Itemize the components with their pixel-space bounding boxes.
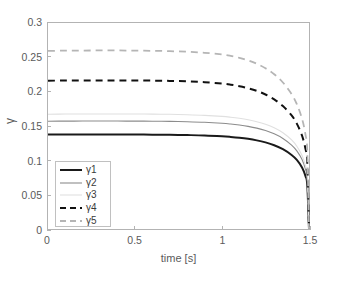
y-tick-label: 0.2 — [2, 85, 42, 97]
y-tick-label: 0.1 — [2, 155, 42, 167]
legend-item-2[interactable]: γ2 — [56, 177, 110, 190]
y-tick-label: 0.25 — [2, 51, 42, 63]
y-tick-label: 0.05 — [2, 189, 42, 201]
legend-label: γ4 — [86, 203, 97, 213]
legend[interactable]: γ1γ2γ3γ4γ5 — [55, 161, 111, 227]
legend-swatch-icon — [59, 190, 83, 200]
x-tick-label: 0 — [27, 234, 67, 246]
y-axis-title: γ — [3, 112, 17, 130]
legend-label: γ2 — [86, 178, 97, 188]
legend-label: γ5 — [86, 216, 97, 226]
x-tick-label: 1 — [202, 234, 242, 246]
chart-figure: 00.050.10.150.20.250.300.511.5 time [s] … — [0, 0, 337, 282]
x-tick-label: 1.5 — [290, 234, 330, 246]
legend-swatch-icon — [59, 165, 83, 175]
y-tick-label: 0.3 — [2, 16, 42, 28]
legend-swatch-icon — [59, 216, 83, 226]
x-tick-label: 0.5 — [115, 234, 155, 246]
legend-item-1[interactable]: γ1 — [56, 164, 110, 177]
legend-label: γ1 — [86, 165, 97, 175]
legend-swatch-icon — [59, 178, 83, 188]
legend-label: γ3 — [86, 190, 97, 200]
legend-item-4[interactable]: γ4 — [56, 202, 110, 215]
legend-swatch-icon — [59, 203, 83, 213]
x-axis-title: time [s] — [47, 252, 310, 264]
y-tick-label: 0 — [2, 224, 42, 236]
legend-item-5[interactable]: γ5 — [56, 214, 110, 227]
legend-item-3[interactable]: γ3 — [56, 189, 110, 202]
